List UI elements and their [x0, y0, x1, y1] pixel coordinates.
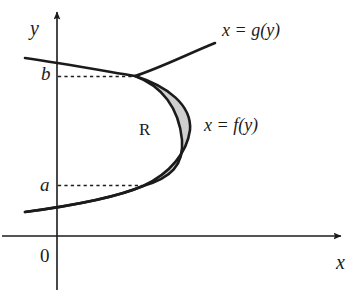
curve-label-g: x = g(y): [222, 21, 280, 39]
y-axis-label: y: [30, 18, 39, 38]
math-figure: y x 0 b a x = g(y) x = f(y) R: [0, 0, 358, 296]
region-label-R: R: [139, 121, 150, 138]
lower-bound-label-a: a: [40, 175, 50, 194]
curve-label-f: x = f(y): [204, 116, 258, 134]
upper-bound-label-b: b: [41, 64, 51, 83]
origin-label: 0: [40, 246, 50, 265]
figure-canvas: [0, 0, 358, 296]
x-axis-label: x: [336, 252, 345, 272]
